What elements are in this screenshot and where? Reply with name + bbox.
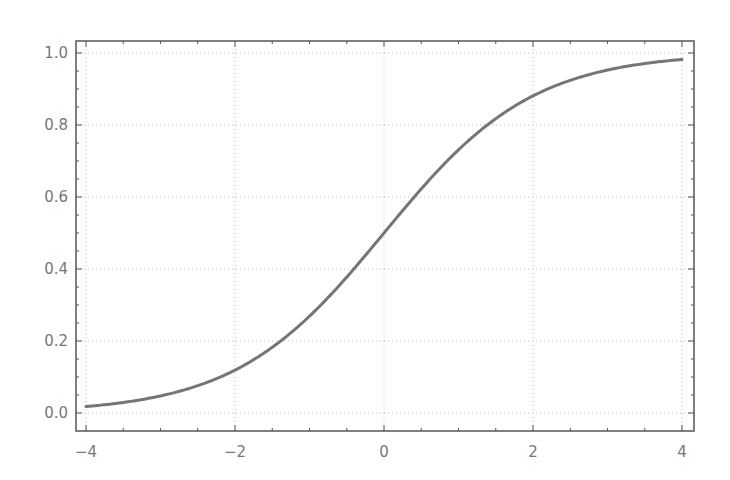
x-tick-label: 4: [677, 443, 687, 461]
y-tick-label: 0.2: [44, 332, 68, 350]
sigmoid-chart: −4−2024 0.00.20.40.60.81.0: [0, 0, 730, 480]
x-tick-label: 2: [528, 443, 538, 461]
x-tick-label: 0: [379, 443, 389, 461]
x-tick-label: −4: [75, 443, 97, 461]
y-tick-label: 1.0: [44, 44, 68, 62]
y-axis-tick-labels: 0.00.20.40.60.81.0: [44, 44, 68, 422]
grid-lines: [76, 41, 694, 431]
sigmoid-curve: [86, 59, 682, 406]
y-tick-label: 0.0: [44, 404, 68, 422]
y-tick-label: 0.6: [44, 188, 68, 206]
plot-frame: [76, 41, 694, 431]
y-tick-label: 0.8: [44, 116, 68, 134]
x-axis-tick-labels: −4−2024: [75, 443, 687, 461]
y-tick-label: 0.4: [44, 260, 68, 278]
data-series: [86, 59, 682, 406]
x-tick-label: −2: [224, 443, 246, 461]
axis-ticks: [76, 41, 694, 431]
